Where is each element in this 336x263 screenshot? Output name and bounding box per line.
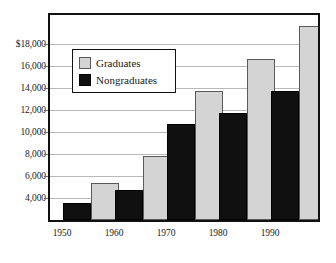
bar-nongraduates-1990 <box>271 91 299 220</box>
legend-swatch-graduates-icon <box>79 57 91 69</box>
y-axis-tick-label: 12,000 <box>0 106 46 116</box>
x-axis-tick-label-1970: 1970 <box>136 228 196 239</box>
y-axis-tick-label: 16,000 <box>0 62 46 72</box>
gridline <box>50 44 318 45</box>
bar-graduates-1990 <box>299 26 320 220</box>
y-axis-tick-label: 6,000 <box>0 172 46 182</box>
legend-swatch-nongraduates-icon <box>79 74 91 86</box>
y-axis-tick-label: $18,000 <box>0 40 46 50</box>
bar-nongraduates-1960 <box>115 190 143 220</box>
x-axis-tick-label-1960: 1960 <box>84 228 144 239</box>
y-axis-tick-label: 14,000 <box>0 84 46 94</box>
plot-area: Graduates Nongraduates <box>48 13 320 222</box>
legend-label-nongraduates: Nongraduates <box>96 74 157 86</box>
bar-chart-figure: $18,000 16,000 14,000 12,000 10,000 8,00… <box>0 0 336 263</box>
legend-label-graduates: Graduates <box>96 57 141 69</box>
y-axis-tick-label: 4,000 <box>0 194 46 204</box>
y-axis-tick-label: 8,000 <box>0 150 46 160</box>
x-axis-tick-label-1990: 1990 <box>240 228 300 239</box>
bar-nongraduates-1970 <box>167 124 195 220</box>
bar-nongraduates-1950 <box>63 203 91 220</box>
legend-entry-nongraduates: Nongraduates <box>79 71 170 88</box>
chart-legend: Graduates Nongraduates <box>72 49 176 93</box>
x-axis-tick-label-1950: 1950 <box>32 228 92 239</box>
x-axis-tick-label-1980: 1980 <box>188 228 248 239</box>
legend-entry-graduates: Graduates <box>79 54 170 71</box>
y-axis-tick-label: 10,000 <box>0 128 46 138</box>
bar-nongraduates-1980 <box>219 113 247 220</box>
